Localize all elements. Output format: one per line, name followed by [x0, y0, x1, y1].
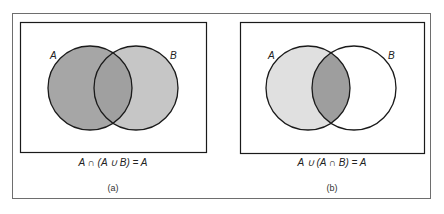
formula-a: A ∩ (A ∪ B) = A	[20, 157, 206, 168]
venn-diagrams: A B A B	[0, 0, 444, 214]
formula-b: A ∪ (A ∩ B) = A	[240, 157, 424, 168]
set-label-a: A	[49, 50, 57, 61]
panel-b-diagram: A B	[241, 23, 425, 154]
set-label-b: B	[388, 50, 395, 61]
panel-a-diagram: A B	[21, 23, 207, 153]
set-label-b: B	[170, 50, 177, 61]
set-label-a: A	[267, 50, 275, 61]
panel-label-b: (b)	[240, 183, 424, 193]
panel-label-a: (a)	[20, 183, 206, 193]
